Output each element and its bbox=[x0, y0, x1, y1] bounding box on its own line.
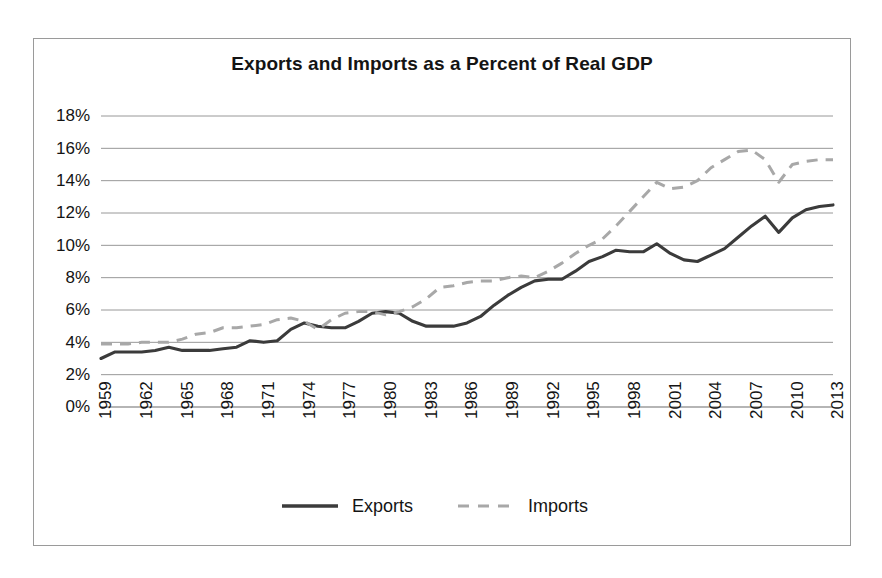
y-tick-label: 16% bbox=[56, 139, 90, 158]
y-tick-label: 18% bbox=[56, 106, 90, 125]
y-tick-label: 8% bbox=[65, 268, 90, 287]
y-tick-label: 2% bbox=[65, 365, 90, 384]
x-tick-label: 2013 bbox=[828, 381, 847, 419]
x-tick-label: 1989 bbox=[503, 381, 522, 419]
x-tick-label: 1998 bbox=[625, 381, 644, 419]
y-tick-label: 12% bbox=[56, 203, 90, 222]
x-tick-label: 1977 bbox=[340, 381, 359, 419]
x-tick-label: 2010 bbox=[788, 381, 807, 419]
series-line-imports bbox=[101, 150, 833, 344]
y-axis-tick-labels: 18%16%14%12%10%8%6%4%2%0% bbox=[56, 106, 90, 416]
x-axis-tick-labels: 1959196219651968197119741977198019831986… bbox=[96, 381, 847, 419]
x-tick-label: 2001 bbox=[666, 381, 685, 419]
y-tick-label: 0% bbox=[65, 397, 90, 416]
chart-frame: Exports and Imports as a Percent of Real… bbox=[33, 38, 851, 546]
y-tick-label: 14% bbox=[56, 171, 90, 190]
legend-label-exports: Exports bbox=[352, 496, 413, 516]
x-tick-label: 1971 bbox=[259, 381, 278, 419]
x-tick-label: 2007 bbox=[747, 381, 766, 419]
x-tick-label: 1983 bbox=[422, 381, 441, 419]
data-series bbox=[101, 150, 833, 359]
x-tick-label: 1995 bbox=[584, 381, 603, 419]
x-tick-label: 1959 bbox=[96, 381, 115, 419]
x-tick-label: 1965 bbox=[178, 381, 197, 419]
chart-legend: ExportsImports bbox=[282, 496, 588, 516]
x-tick-label: 1962 bbox=[137, 381, 156, 419]
y-tick-label: 4% bbox=[65, 333, 90, 352]
x-tick-label: 1992 bbox=[544, 381, 563, 419]
x-tick-label: 1980 bbox=[381, 381, 400, 419]
scanned-page: Exports and Imports as a Percent of Real… bbox=[0, 0, 882, 578]
y-tick-label: 6% bbox=[65, 300, 90, 319]
x-tick-label: 1968 bbox=[218, 381, 237, 419]
x-tick-label: 1986 bbox=[462, 381, 481, 419]
y-tick-label: 10% bbox=[56, 236, 90, 255]
legend-label-imports: Imports bbox=[528, 496, 588, 516]
x-tick-label: 1974 bbox=[300, 381, 319, 419]
x-tick-label: 2004 bbox=[706, 381, 725, 419]
chart-plot-area: 18%16%14%12%10%8%6%4%2%0% 19591962196519… bbox=[34, 39, 852, 547]
